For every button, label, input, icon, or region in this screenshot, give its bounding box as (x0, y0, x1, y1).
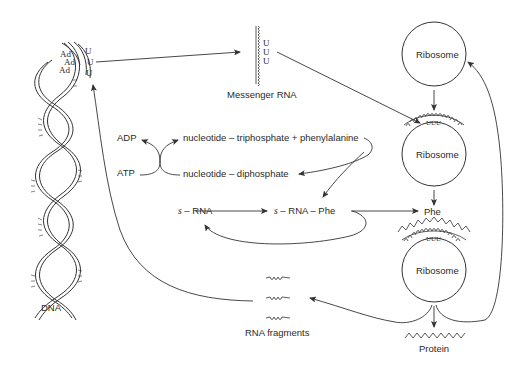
ntp-phenylalanine-label: nucleotide – triphosphate + phenylalanin… (183, 133, 359, 143)
arrow-dna-to-mrna (96, 52, 240, 62)
adp-atp-exchange-arrows (140, 140, 180, 175)
arrow-ribosome-to-fragments (310, 298, 432, 323)
mrna-codon-label: U (263, 57, 270, 66)
srna-label: s – RNA (178, 206, 212, 217)
rna-fragments-icon (266, 277, 290, 320)
ribosome-mid-label: Ribosome (416, 150, 459, 160)
mrna-label: Messenger RNA (227, 90, 297, 100)
arrow-ribosome-recycle (436, 62, 503, 322)
dna-complement-label: U (87, 58, 94, 67)
rna-fragments-label: RNA fragments (245, 328, 309, 338)
ribosome-mid-codon: UUU (426, 120, 441, 127)
ribosome-bottom-codon: UUU (426, 236, 441, 243)
mrna-coil-icon (256, 26, 260, 86)
adp-label: ADP (117, 133, 137, 143)
ndp-label: nucleotide – diphosphate (183, 169, 289, 179)
dna-complement-label: U (86, 69, 93, 78)
protein-label: Protein (419, 344, 449, 354)
dna-label: DNA (41, 303, 61, 313)
atp-label: ATP (117, 168, 135, 178)
arrow-fragments-to-dna (93, 85, 253, 301)
ribosome-bottom-label: Ribosome (416, 266, 459, 276)
protein-chain-icon (405, 333, 465, 338)
dna-complement-label: U (85, 47, 92, 56)
dna-base-label: Ad (59, 66, 70, 75)
srna-phe-label: s – RNA – Phe (274, 206, 335, 217)
dna-helix-icon (31, 42, 90, 320)
protein-synthesis-diagram: Ad Ad Ad U U U DNA U U U Messenger RNA R… (0, 0, 520, 373)
arrow-mrna-to-ribosome (277, 52, 420, 123)
phe-label: Phe (424, 207, 441, 217)
ntp-reaction-arrows (299, 138, 372, 197)
ribosome-top-label: Ribosome (416, 50, 459, 60)
